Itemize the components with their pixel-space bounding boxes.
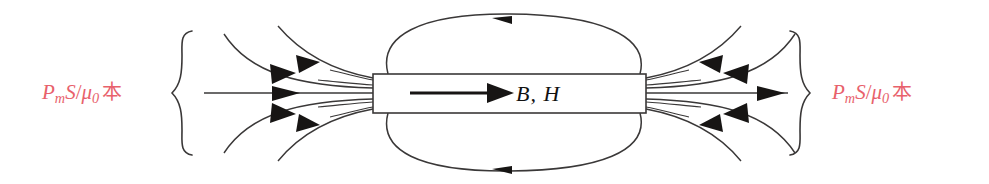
left-axial-arrowhead bbox=[272, 86, 300, 101]
left-flux-unit: 本 bbox=[99, 80, 122, 104]
right-flux-label: PmS/μ0本 bbox=[832, 82, 912, 105]
top-loop-arrowhead bbox=[492, 16, 512, 24]
left-lower-field-lines bbox=[224, 99, 373, 161]
right-axial-arrowhead bbox=[757, 86, 785, 101]
left-flux-P: P bbox=[42, 80, 55, 104]
left-flux-brace bbox=[172, 31, 192, 155]
left-axial-field-line bbox=[204, 86, 373, 101]
left-flux-mu: μ bbox=[81, 80, 92, 104]
right-upper-field-lines bbox=[646, 26, 795, 88]
left-upper-field-lines bbox=[224, 26, 373, 88]
right-flux-brace bbox=[790, 31, 810, 155]
left-flux-P-subscript: m bbox=[55, 90, 65, 106]
bar-magnet bbox=[373, 74, 646, 113]
bottom-loop-arrowhead bbox=[492, 166, 512, 174]
bar-field-label: B, H bbox=[516, 81, 560, 107]
top-return-loop bbox=[387, 14, 642, 74]
right-lower-field-lines bbox=[646, 99, 795, 161]
bottom-return-loop bbox=[387, 113, 642, 174]
right-flux-mu: μ bbox=[871, 80, 882, 104]
left-flux-label: PmS/μ0本 bbox=[42, 82, 122, 105]
right-flux-P: P bbox=[832, 80, 845, 104]
right-axial-field-line bbox=[646, 86, 788, 101]
right-flux-P-subscript: m bbox=[845, 90, 855, 106]
right-flux-S: S bbox=[855, 80, 866, 104]
right-flux-unit: 本 bbox=[889, 80, 912, 104]
left-flux-S: S bbox=[65, 80, 76, 104]
